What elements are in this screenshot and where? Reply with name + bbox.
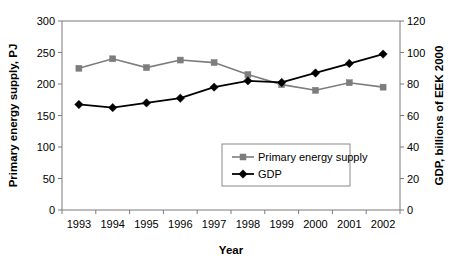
right-tick-label: 40 (407, 141, 419, 153)
data-point-marker (144, 65, 150, 71)
legend-marker-square-icon (240, 154, 246, 160)
x-tick-label: 1999 (269, 218, 293, 230)
data-point-marker (313, 87, 319, 93)
chart-container: 050100150200250300 020406080100120 19931… (0, 0, 453, 269)
x-axis-title: Year (219, 244, 244, 256)
left-tick-label: 250 (37, 47, 55, 59)
legend-label: Primary energy supply (258, 151, 368, 163)
left-tick-label: 100 (37, 141, 55, 153)
left-tick-label: 50 (43, 173, 55, 185)
x-tick-label: 1998 (236, 218, 260, 230)
right-axis-title: GDP, billions of EEK 2000 (433, 46, 445, 186)
x-tick-label: 1994 (100, 218, 124, 230)
chart-legend: Primary energy supplyGDP (222, 144, 368, 186)
data-point-marker (380, 84, 386, 90)
data-point-marker (177, 57, 183, 63)
legend-label: GDP (258, 168, 282, 180)
data-point-marker (76, 65, 82, 71)
x-tick-label: 1997 (202, 218, 226, 230)
x-tick-label: 1996 (168, 218, 192, 230)
x-tick-label: 1995 (134, 218, 158, 230)
left-tick-label: 0 (49, 204, 55, 216)
left-tick-label: 300 (37, 15, 55, 27)
x-tick-label: 2001 (337, 218, 361, 230)
right-tick-label: 120 (407, 15, 425, 27)
right-tick-label: 60 (407, 110, 419, 122)
right-tick-label: 80 (407, 78, 419, 90)
x-tick-label: 2000 (303, 218, 327, 230)
data-point-marker (110, 56, 116, 62)
left-tick-label: 150 (37, 110, 55, 122)
data-point-marker (211, 60, 217, 66)
x-tick-label: 1993 (67, 218, 91, 230)
right-tick-label: 100 (407, 47, 425, 59)
data-point-marker (346, 80, 352, 86)
right-tick-label: 20 (407, 173, 419, 185)
left-tick-label: 200 (37, 78, 55, 90)
right-tick-label: 0 (407, 204, 413, 216)
left-axis-title: Primary energy supply, PJ (7, 44, 19, 188)
dual-axis-line-chart: 050100150200250300 020406080100120 19931… (0, 0, 453, 269)
x-tick-label: 2002 (371, 218, 395, 230)
